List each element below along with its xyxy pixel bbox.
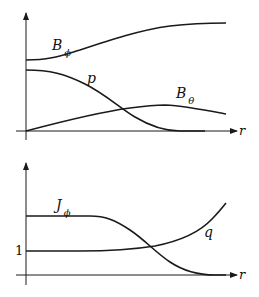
y-tick-one: 1 <box>15 243 23 258</box>
top-x-axis-label: r <box>239 123 246 138</box>
curve-b-theta <box>26 105 226 131</box>
label-j-phi: Jϕ <box>53 197 71 218</box>
bottom-x-axis-label: r <box>239 267 246 282</box>
profiles-diagram: r Bϕ p Bθ r 1 Jϕ q <box>0 0 259 297</box>
curve-j-phi <box>26 216 226 275</box>
label-b-theta: Bθ <box>175 85 194 106</box>
label-p: p <box>87 70 96 86</box>
top-panel: r Bϕ p Bθ <box>16 13 246 140</box>
label-q: q <box>204 224 213 240</box>
bottom-panel: r 1 Jϕ q <box>15 163 246 285</box>
